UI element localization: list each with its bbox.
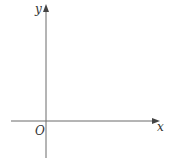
y-axis-label: y [34,2,42,16]
x-axis-label: x [157,120,164,134]
y-axis-arrow-icon [43,4,49,12]
coordinate-plane: y x O [0,0,173,160]
origin-label: O [35,124,45,138]
